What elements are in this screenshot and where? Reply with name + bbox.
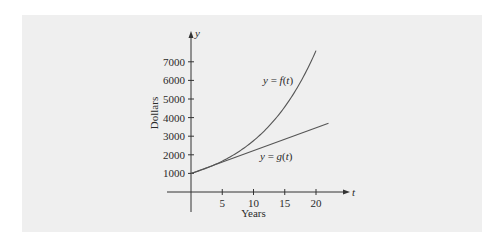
y-tick-label: 1000 (163, 167, 186, 179)
series-f-line (191, 51, 316, 174)
series-g-line (191, 123, 329, 173)
series-f-label: y = f(t) (262, 74, 293, 87)
y-tick-label: 5000 (163, 93, 186, 105)
y-tick-label: 7000 (163, 56, 186, 68)
series-g-label: y = g(t) (259, 150, 293, 163)
line-chart: ty51015201000200030004000500060007000Yea… (0, 0, 500, 243)
x-tick-label: 15 (279, 197, 291, 209)
y-tick-label: 3000 (163, 130, 186, 142)
x-axis-title: Years (241, 207, 266, 219)
y-axis-symbol: y (194, 27, 200, 39)
y-axis-title: Dollars (148, 97, 160, 129)
x-axis-arrow-icon (343, 190, 350, 195)
axes (167, 31, 350, 212)
x-axis-symbol: t (352, 186, 356, 198)
y-tick-label: 2000 (163, 149, 186, 161)
y-axis-arrow-icon (189, 31, 194, 38)
y-tick-label: 4000 (163, 112, 186, 124)
ticks (188, 62, 316, 195)
x-tick-label: 5 (220, 197, 226, 209)
y-tick-label: 6000 (163, 74, 186, 86)
x-tick-label: 20 (311, 197, 323, 209)
labels: ty51015201000200030004000500060007000Yea… (148, 27, 356, 219)
